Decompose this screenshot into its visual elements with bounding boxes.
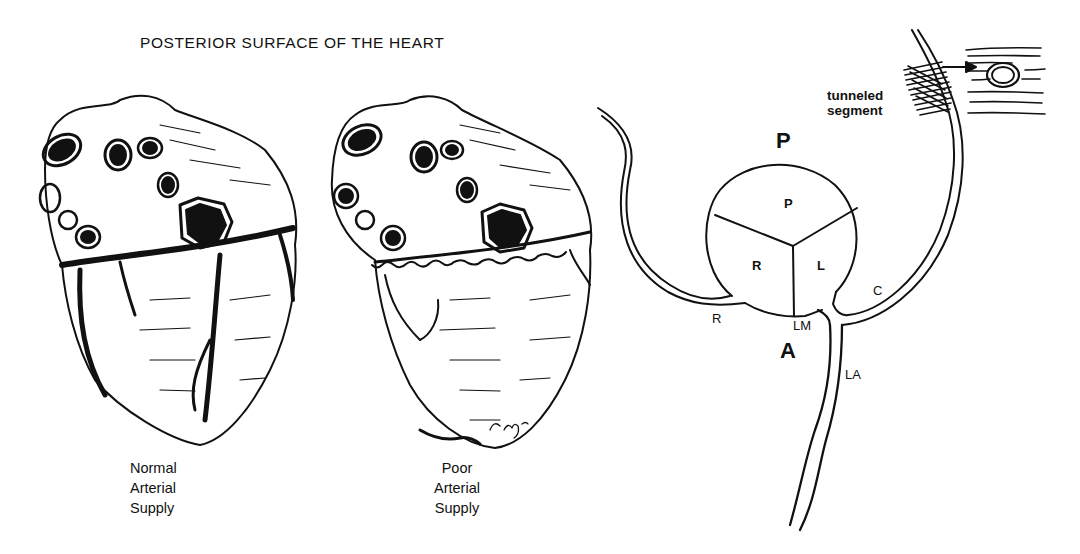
figure-title: POSTERIOR SURFACE OF THE HEART [140,34,444,52]
cusp-label-left: L [817,258,825,273]
coronary-schematic-drawing [598,30,1045,530]
vessel-label-right-coronary: R [712,311,721,326]
caption-normal-supply: Normal Arterial Supply [130,458,177,518]
vessel-label-left-anterior: LA [845,367,861,382]
label-anterior: A [780,338,796,364]
label-line: segment [827,103,883,118]
caption-poor-supply: Poor Arterial Supply [434,458,480,518]
tunneled-hatching [904,62,951,115]
caption-line: Poor [434,458,480,478]
cross-section-inset [966,48,1045,114]
caption-line: Arterial [130,478,177,498]
vessel-label-left-main: LM [793,318,811,333]
vessel-label-circumflex: C [873,283,882,298]
label-tunneled-segment: tunneled segment [827,88,883,118]
cusp-label-posterior: P [784,196,793,211]
heart-normal-drawing [38,96,297,445]
label-line: tunneled [827,88,883,103]
caption-line: Normal [130,458,177,478]
caption-line: Supply [434,498,480,518]
label-posterior: P [776,128,791,154]
caption-line: Supply [130,498,177,518]
heart-poor-drawing [332,96,591,448]
cusp-label-right: R [752,258,761,273]
caption-line: Arterial [434,478,480,498]
